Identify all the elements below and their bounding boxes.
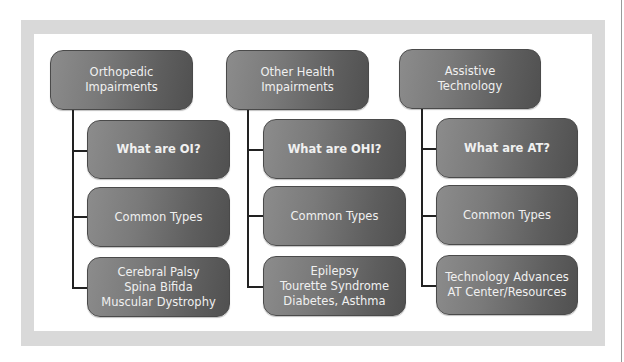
child-label: Epilepsy Tourette Syndrome Diabetes, Ast… [280,264,389,309]
connector-branch [247,215,263,217]
connector-trunk [421,109,423,286]
child-box-common-types: Common Types [436,185,578,245]
child-label: What are OI? [116,142,200,157]
header-box-orthopedic-impairments: Orthopedic Impairments [50,50,193,110]
child-box-common-types: Common Types [263,186,406,246]
header-label: Orthopedic Impairments [85,65,158,95]
connector-branch [421,285,436,287]
connector-branch [72,287,87,289]
connector-branch [247,149,263,151]
child-box-what-are-ohi: What are OHI? [263,119,406,179]
child-label: Technology Advances AT Center/Resources [445,270,569,300]
child-label: Cerebral Palsy Spina Bifida Muscular Dys… [101,265,216,310]
header-label: Other Health Impairments [260,65,334,95]
page-edge-line [621,0,622,362]
child-label: Common Types [463,208,551,223]
child-label: What are AT? [464,141,550,156]
connector-branch [247,286,263,288]
child-box-common-types: Common Types [87,187,230,247]
child-box-ohi-examples: Epilepsy Tourette Syndrome Diabetes, Ast… [263,256,406,316]
connector-trunk [72,110,74,288]
header-box-assistive-technology: Assistive Technology [399,49,541,109]
child-label: What are OHI? [288,142,382,157]
child-box-what-are-oi: What are OI? [87,120,230,179]
header-box-other-health-impairments: Other Health Impairments [226,50,369,110]
connector-trunk [247,110,249,287]
child-label: Common Types [115,210,203,225]
child-label: Common Types [291,209,379,224]
connector-branch [72,216,87,218]
connector-branch [421,148,436,150]
child-box-oi-examples: Cerebral Palsy Spina Bifida Muscular Dys… [87,257,230,317]
connector-branch [421,215,436,217]
header-label: Assistive Technology [438,64,502,94]
connector-branch [72,150,87,152]
child-box-at-resources: Technology Advances AT Center/Resources [436,255,578,315]
child-box-what-are-at: What are AT? [436,118,578,178]
